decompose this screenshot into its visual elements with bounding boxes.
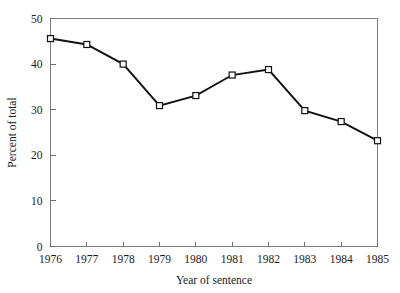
svg-text:1985: 1985 bbox=[366, 253, 389, 265]
y-axis-ticks bbox=[51, 19, 56, 247]
svg-text:10: 10 bbox=[31, 195, 43, 207]
svg-text:1982: 1982 bbox=[257, 253, 280, 265]
y-axis-tick-labels: 01020304050 bbox=[31, 13, 43, 253]
svg-text:20: 20 bbox=[31, 149, 43, 161]
svg-text:1978: 1978 bbox=[112, 253, 135, 265]
line-chart: 01020304050 1976197719781979198019811982… bbox=[0, 0, 400, 293]
svg-text:1980: 1980 bbox=[184, 253, 207, 265]
x-axis-tick-labels: 1976197719781979198019811982198319841985 bbox=[39, 253, 389, 265]
data-series-markers bbox=[48, 36, 381, 144]
svg-text:50: 50 bbox=[31, 13, 43, 25]
x-axis-title: Year of sentence bbox=[176, 274, 252, 286]
svg-text:1981: 1981 bbox=[221, 253, 244, 265]
svg-text:1976: 1976 bbox=[39, 253, 62, 265]
chart-figure: 01020304050 1976197719781979198019811982… bbox=[0, 0, 400, 293]
svg-text:0: 0 bbox=[37, 241, 43, 253]
plot-frame bbox=[51, 19, 378, 247]
y-axis-title: Percent of total bbox=[6, 97, 18, 167]
svg-text:1984: 1984 bbox=[330, 253, 353, 265]
svg-text:1977: 1977 bbox=[75, 253, 98, 265]
data-series-line bbox=[51, 39, 378, 141]
svg-text:1979: 1979 bbox=[148, 253, 171, 265]
svg-text:30: 30 bbox=[31, 104, 43, 116]
svg-text:40: 40 bbox=[31, 58, 43, 70]
x-axis-ticks bbox=[51, 242, 378, 247]
svg-text:1983: 1983 bbox=[293, 253, 316, 265]
